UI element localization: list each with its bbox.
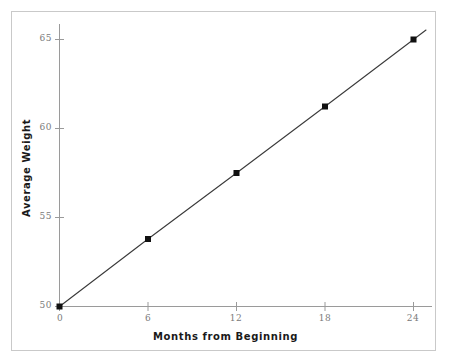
data-point (234, 170, 240, 176)
data-point (145, 236, 151, 242)
data-point (322, 104, 328, 110)
y-axis-title: Average Weight (21, 118, 32, 216)
x-tick-label-18: 18 (309, 313, 341, 323)
data-line (60, 30, 427, 307)
y-tick-label-65: 65 (28, 33, 52, 43)
data-point (411, 37, 417, 43)
plot-canvas (0, 0, 451, 364)
data-point (57, 304, 63, 310)
x-tick-label-6: 6 (132, 313, 164, 323)
y-axis-title-container: Average Weight (18, 110, 34, 225)
y-tick-label-50: 50 (28, 300, 52, 310)
x-tick-label-12: 12 (220, 313, 252, 323)
x-axis-title: Months from Beginning (0, 331, 451, 342)
x-tick-label-24: 24 (397, 313, 429, 323)
chart-figure: 65 60 55 50 0 6 12 18 24 Months from Beg… (0, 0, 451, 364)
x-tick-label-0: 0 (44, 313, 76, 323)
